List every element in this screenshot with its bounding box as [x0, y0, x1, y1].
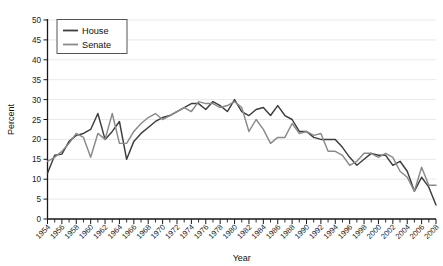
y-axis-tick-labels: 05101520253035404550 [32, 16, 42, 224]
y-tick-label: 15 [32, 155, 42, 164]
legend-label-house: House [82, 26, 109, 36]
x-tick-label: 1980 [221, 223, 239, 241]
x-axis-tick-labels: 1954195619581960196219641966196819701972… [34, 223, 441, 241]
x-tick-label: 1970 [149, 223, 167, 241]
x-tick-label: 1964 [106, 223, 124, 241]
y-tick-label: 40 [32, 56, 42, 65]
x-tick-label: 1982 [235, 223, 253, 241]
x-tick-label: 1996 [336, 223, 354, 241]
x-tick-label: 2004 [394, 223, 412, 241]
x-tick-label: 1990 [293, 223, 311, 241]
y-tick-label: 0 [36, 215, 41, 224]
x-axis-ticks [48, 219, 437, 224]
x-tick-label: 1994 [322, 223, 340, 241]
y-tick-label: 45 [32, 36, 42, 45]
data-series-group [48, 100, 437, 205]
y-tick-label: 30 [32, 96, 42, 105]
x-tick-label: 1986 [264, 223, 282, 241]
y-tick-label: 35 [32, 76, 42, 85]
y-axis-title: Percent [6, 103, 16, 135]
x-tick-label: 1976 [192, 223, 210, 241]
y-tick-label: 50 [32, 16, 42, 25]
x-tick-label: 2002 [379, 223, 397, 241]
x-tick-label: 2000 [365, 223, 383, 241]
x-tick-label: 1968 [135, 223, 153, 241]
x-axis-title: Year [233, 253, 251, 263]
x-tick-label: 1972 [163, 223, 181, 241]
x-tick-label: 1958 [63, 223, 81, 241]
y-tick-label: 25 [32, 116, 42, 125]
chart-container: 05101520253035404550 1954195619581960196… [0, 0, 443, 266]
y-tick-label: 20 [32, 135, 42, 144]
series-line-senate [48, 102, 437, 192]
x-tick-label: 2008 [422, 223, 440, 241]
x-tick-label: 1954 [34, 223, 52, 241]
chart-legend: HouseSenate [57, 20, 127, 54]
series-line-house [48, 100, 437, 205]
x-tick-label: 1962 [91, 223, 109, 241]
x-tick-label: 1966 [120, 223, 138, 241]
line-chart: 05101520253035404550 1954195619581960196… [0, 0, 443, 266]
x-tick-label: 1974 [178, 223, 196, 241]
x-tick-label: 1992 [307, 223, 325, 241]
legend-label-senate: Senate [82, 40, 111, 50]
x-tick-label: 1978 [206, 223, 224, 241]
x-tick-label: 1988 [278, 223, 296, 241]
x-tick-label: 1960 [77, 223, 95, 241]
x-tick-label: 1998 [350, 223, 368, 241]
y-tick-label: 10 [32, 175, 42, 184]
y-tick-label: 5 [36, 195, 41, 204]
x-tick-label: 1956 [48, 223, 66, 241]
x-tick-label: 1984 [250, 223, 268, 241]
x-tick-label: 2006 [408, 223, 426, 241]
